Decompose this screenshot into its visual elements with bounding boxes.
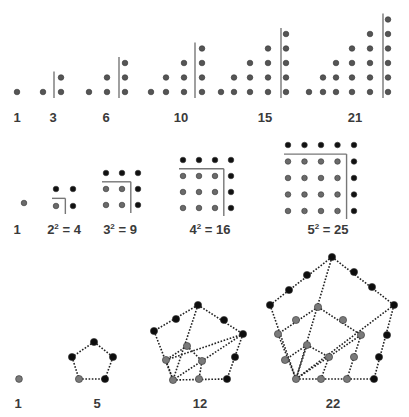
dot — [274, 330, 281, 337]
dot — [231, 353, 238, 360]
dot — [119, 202, 125, 208]
dot — [212, 205, 218, 211]
dot — [335, 175, 341, 181]
label-sq-25: 52 = 25 — [308, 222, 349, 237]
dot — [385, 31, 391, 37]
dot — [53, 203, 59, 209]
dot — [283, 75, 289, 81]
dot — [351, 142, 357, 148]
dot — [318, 192, 324, 198]
dot — [228, 173, 234, 179]
dot — [196, 173, 202, 179]
dot — [375, 353, 382, 360]
dot — [367, 89, 373, 95]
dot — [103, 170, 109, 176]
dot — [104, 89, 110, 95]
dot — [335, 142, 341, 148]
dot — [228, 157, 234, 163]
dot — [333, 60, 339, 66]
label-tri-1: 1 — [13, 110, 20, 125]
dot — [367, 31, 373, 37]
dotted-edge — [296, 305, 394, 379]
dot — [390, 301, 397, 308]
dot — [223, 375, 230, 382]
label-tri-10: 10 — [174, 110, 188, 125]
dot — [351, 208, 357, 214]
dot — [135, 202, 141, 208]
dot — [150, 327, 157, 334]
dot — [385, 46, 391, 52]
dot — [285, 286, 292, 293]
dot — [302, 208, 308, 214]
dot — [70, 203, 76, 209]
dot — [212, 157, 218, 163]
dot — [283, 31, 289, 37]
dot — [169, 376, 176, 383]
dot — [228, 189, 234, 195]
dot — [101, 375, 108, 382]
dot — [333, 75, 339, 81]
dot — [302, 192, 308, 198]
dot — [196, 157, 202, 163]
label-sq-16: 42 = 16 — [190, 222, 231, 237]
dot — [285, 192, 291, 198]
dot — [103, 186, 109, 192]
dot — [339, 316, 346, 323]
dot — [40, 89, 46, 95]
dot — [265, 46, 271, 52]
dot — [351, 192, 357, 198]
label-tri-15: 15 — [258, 110, 272, 125]
dot — [318, 175, 324, 181]
label-pent-12: 12 — [193, 396, 207, 411]
dot — [368, 283, 375, 290]
dot — [247, 60, 253, 66]
dot — [306, 89, 312, 95]
dot — [303, 271, 310, 278]
dot — [180, 205, 186, 211]
dot — [283, 46, 289, 52]
dot — [302, 142, 308, 148]
dot — [90, 338, 97, 345]
label-tri-3: 3 — [49, 110, 56, 125]
dot — [350, 268, 357, 275]
dotted-edge — [72, 342, 94, 357]
dot — [122, 60, 128, 66]
dot — [385, 75, 391, 81]
label-pent-1: 1 — [14, 396, 21, 411]
dot — [181, 60, 187, 66]
dotted-edge — [270, 257, 332, 305]
dot — [350, 353, 357, 360]
dot — [180, 189, 186, 195]
label-tri-21: 21 — [348, 110, 362, 125]
dotted-edge — [374, 305, 394, 379]
dot — [335, 208, 341, 214]
dot — [303, 341, 310, 348]
dot — [212, 173, 218, 179]
dot — [351, 175, 357, 181]
dot — [68, 353, 75, 360]
dot — [181, 89, 187, 95]
dot — [318, 208, 324, 214]
dot — [343, 375, 350, 382]
dot — [328, 253, 335, 260]
dot — [231, 75, 237, 81]
dot — [335, 192, 341, 198]
dot — [281, 356, 288, 363]
dot — [103, 202, 109, 208]
dotted-edge — [332, 257, 394, 305]
label-pent-5: 5 — [93, 396, 100, 411]
dot — [320, 89, 326, 95]
dot — [317, 375, 324, 382]
dot — [349, 89, 355, 95]
dot — [14, 89, 20, 95]
dot — [292, 375, 299, 382]
dot — [70, 186, 76, 192]
dot — [180, 173, 186, 179]
dot — [172, 315, 179, 322]
dot — [367, 46, 373, 52]
dot — [285, 159, 291, 165]
dot — [318, 159, 324, 165]
dot — [266, 301, 273, 308]
dot — [239, 330, 246, 337]
diagram-canvas — [0, 0, 409, 417]
